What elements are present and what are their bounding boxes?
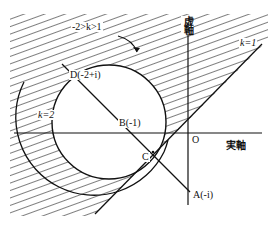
label-axis-real: 実軸 [225,141,247,151]
label-circle-k2: k=2 [37,110,55,120]
label-inequality: -2>k>1 [71,22,103,32]
label-point-a: A(-i) [192,190,214,200]
label-line-k1: k=1 [239,38,257,48]
label-point-d: D(-2+i) [69,70,102,80]
figure-container: -2>k>1 D(-2+i) B(-1) C A(-i) O k=1 k=2 虚… [0,0,275,229]
label-axis-imaginary: 虚軸 [181,16,193,34]
label-point-b: B(-1) [118,118,142,128]
label-origin: O [191,135,200,145]
label-point-c: C [141,152,150,162]
point-dot-c [152,151,155,154]
